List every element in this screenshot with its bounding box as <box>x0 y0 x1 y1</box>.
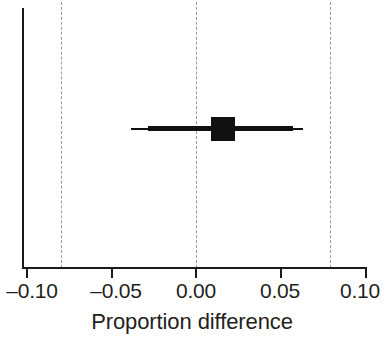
x-axis-tick-4 <box>365 269 367 278</box>
reference-line-lower <box>61 2 63 268</box>
x-axis-tick-2 <box>195 269 197 278</box>
y-axis-spine <box>22 8 24 269</box>
reference-line-null <box>196 2 198 268</box>
x-axis-tick-1 <box>111 269 113 278</box>
x-axis-tick-label-4: 0.10 <box>340 279 380 303</box>
x-axis-tick-label-1: –0.05 <box>90 279 142 303</box>
forest-plot-figure: –0.10 –0.05 0.00 0.05 0.10 Proportion di… <box>0 0 384 341</box>
x-axis-title: Proportion difference <box>0 309 384 335</box>
point-estimate-marker <box>211 117 235 141</box>
reference-line-upper <box>330 2 332 268</box>
plot-area <box>0 0 384 272</box>
x-axis-tick-label-3: 0.05 <box>260 279 300 303</box>
x-axis-tick-3 <box>280 269 282 278</box>
x-axis-tick-label-2: 0.00 <box>176 279 216 303</box>
x-axis-tick-label-0: –0.10 <box>6 279 58 303</box>
x-axis-tick-0 <box>26 269 28 278</box>
